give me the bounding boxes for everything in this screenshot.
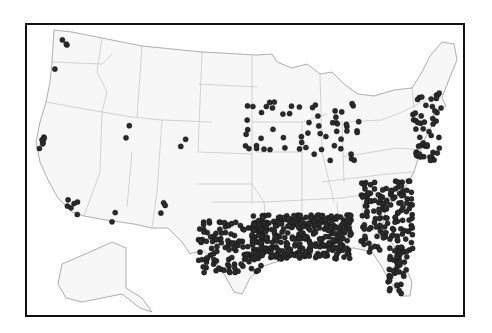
location-marker [334,214,339,219]
location-marker [263,229,268,234]
location-marker [378,197,383,202]
location-marker [163,203,168,208]
location-marker [413,110,418,115]
location-marker [328,158,333,163]
location-marker [251,227,256,232]
location-marker [285,241,290,246]
location-marker [202,270,207,275]
location-marker [290,236,295,241]
location-marker [387,246,392,251]
location-marker [437,146,442,151]
location-marker [329,214,334,219]
location-marker [346,217,351,222]
location-marker [347,225,352,230]
location-marker [363,203,368,208]
location-marker [245,103,250,108]
location-marker [250,104,255,109]
location-marker [384,216,389,221]
location-marker [127,123,132,128]
location-marker [434,96,439,101]
location-marker [404,254,409,259]
location-marker [322,252,327,257]
location-marker [292,243,297,248]
location-marker [399,200,404,205]
location-marker [295,223,300,228]
location-marker [258,240,263,245]
location-marker [330,120,335,125]
location-marker [376,192,381,197]
location-marker [429,97,434,102]
location-marker [204,265,209,270]
location-marker [256,268,261,273]
location-marker [307,227,312,232]
location-marker [251,213,256,218]
location-marker [201,229,206,234]
location-marker [211,257,216,262]
location-marker [385,221,390,226]
location-marker [309,244,314,249]
location-marker [421,126,426,131]
location-marker [237,238,242,243]
location-marker [244,252,249,257]
location-marker [264,235,269,240]
location-marker [302,235,307,240]
us-map [27,25,463,315]
location-marker [225,238,230,243]
location-marker [392,248,397,253]
location-marker [347,256,352,261]
location-marker [298,230,303,235]
location-marker [335,121,340,126]
location-marker [297,146,302,151]
location-marker [372,244,377,249]
location-marker [267,147,272,152]
location-marker [214,249,219,254]
location-marker [315,113,320,118]
location-marker [258,263,263,268]
location-marker [391,268,396,273]
location-marker [250,242,255,247]
location-marker [245,244,250,249]
location-marker [308,215,313,220]
location-marker [298,252,303,257]
location-marker [415,97,420,102]
location-marker [419,113,424,118]
location-marker [404,201,409,206]
location-marker [208,234,213,239]
location-marker [338,239,343,244]
location-marker [281,215,286,220]
location-marker [231,246,236,251]
location-marker [393,215,398,220]
location-marker [397,260,402,265]
location-marker [362,227,367,232]
location-marker [301,224,306,229]
location-marker [429,133,434,138]
location-marker [339,137,344,142]
location-marker [289,104,294,109]
location-marker [410,246,415,251]
location-marker [355,130,360,135]
location-marker [364,209,369,214]
location-marker [200,257,205,262]
location-marker [37,146,42,151]
location-marker [264,104,269,109]
location-marker [401,271,406,276]
location-marker [217,227,222,232]
location-marker [343,246,348,251]
location-marker [207,218,212,223]
location-marker [40,141,45,146]
location-marker [438,105,443,110]
location-marker [391,196,396,201]
location-marker [305,131,310,136]
location-marker [254,146,259,151]
location-marker [310,105,315,110]
location-marker [327,247,332,252]
location-marker [209,246,214,251]
location-marker [362,183,367,188]
location-marker [327,242,332,247]
location-marker [287,111,292,116]
location-marker [235,269,240,274]
location-marker [261,147,266,152]
location-marker [232,233,237,238]
location-marker [42,136,47,141]
location-marker [334,225,339,230]
